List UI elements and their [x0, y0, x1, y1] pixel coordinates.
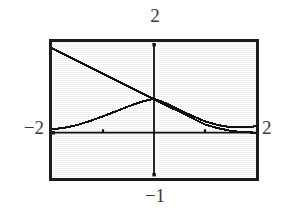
x-axis-left-cap — [52, 131, 55, 134]
window-label-ymin: −1 — [141, 186, 169, 205]
calculator-screen — [49, 39, 259, 181]
window-label-xmin: −2 — [6, 118, 44, 137]
x-axis-tick — [204, 129, 206, 132]
figure-container: 2 −2 2 −1 — [0, 0, 281, 216]
x-axis-tick — [102, 129, 104, 132]
window-label-ymax: 2 — [141, 6, 169, 25]
window-label-xmax: 2 — [262, 118, 280, 137]
y-axis-top-cap — [152, 43, 155, 46]
y-axis-bottom-cap — [152, 173, 155, 176]
plot-svg — [52, 42, 256, 178]
